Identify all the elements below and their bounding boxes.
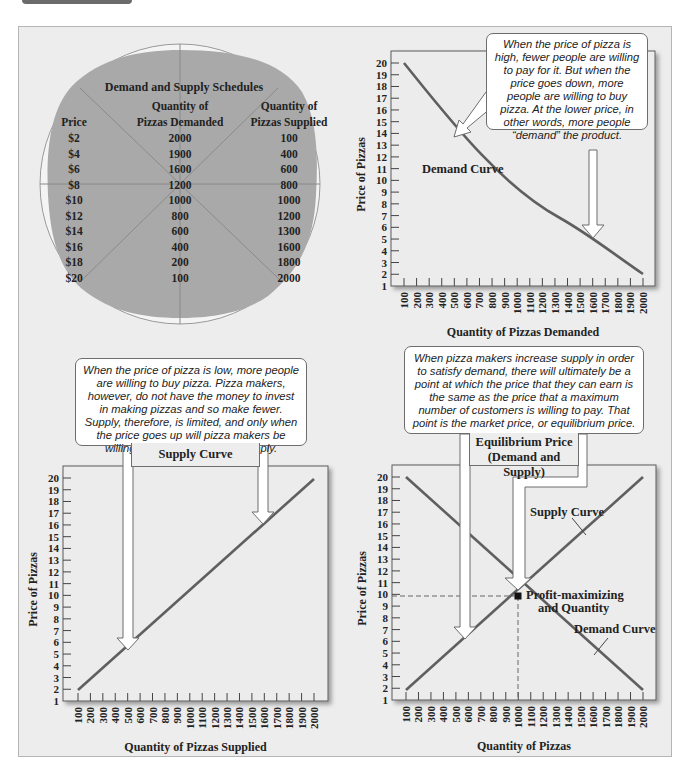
x-tick-label: 1200 (209, 707, 221, 730)
x-tick-label: 1700 (271, 707, 283, 730)
schedule-cell-supplied: 400 (248, 147, 330, 163)
schedule-cell-price: $16 (54, 240, 94, 256)
schedule-cell-demanded: 1600 (140, 162, 220, 178)
x-tick-label: 200 (84, 707, 96, 724)
x-tick-label: 800 (487, 706, 499, 723)
schedule-cell-price: $10 (54, 193, 94, 209)
x-tick-label: 1000 (511, 292, 523, 315)
x-tick-label: 1500 (574, 292, 586, 315)
schedule-col-price: Price (54, 115, 94, 131)
x-axis-title: Quantity of Pizzas Supplied (124, 740, 267, 754)
eq-demand-curve-label: Demand Curve (574, 622, 656, 637)
y-tick-label: 9 (383, 600, 389, 612)
y-tick-label: 7 (54, 625, 60, 637)
y-tick-label: 12 (377, 565, 389, 577)
y-tick-label: 10 (376, 174, 388, 186)
y-tick-label: 17 (48, 507, 60, 519)
y-tick-label: 15 (377, 530, 389, 542)
y-tick-label: 19 (48, 484, 60, 496)
schedule-cell-supplied: 800 (248, 178, 330, 194)
y-tick-label: 4 (383, 659, 389, 671)
x-tick-label: 400 (109, 707, 121, 724)
y-tick-label: 14 (376, 127, 388, 139)
x-tick-label: 600 (462, 706, 474, 723)
supply-chart (63, 466, 328, 701)
y-axis-title: Price of Pizzas (26, 552, 40, 627)
y-tick-label: 10 (377, 588, 389, 600)
y-tick-label: 12 (376, 151, 388, 163)
y-tick-label: 16 (376, 104, 388, 116)
callout-equilibrium: When pizza makers increase supply in ord… (404, 346, 644, 434)
y-tick-label: 11 (378, 577, 388, 589)
x-tick-label: 1500 (575, 706, 587, 729)
y-tick-label: 2 (383, 682, 389, 694)
x-tick-label: 1800 (612, 292, 624, 315)
y-tick-label: 7 (383, 624, 389, 636)
schedule-cell-price: $20 (54, 271, 94, 287)
x-tick-label: 1000 (184, 707, 196, 730)
y-tick-label: 8 (383, 612, 389, 624)
schedule-cell-price: $4 (54, 147, 94, 163)
schedule-col-supplied-l2: Pizzas Supplied (246, 115, 332, 131)
x-tick-label: 1600 (258, 707, 270, 730)
x-tick-label: 1100 (525, 706, 537, 728)
y-tick-label: 1 (54, 695, 60, 707)
x-tick-label: 700 (147, 707, 159, 724)
x-tick-label: 300 (425, 706, 437, 723)
y-tick-label: 12 (48, 566, 60, 578)
y-tick-label: 20 (376, 57, 388, 69)
schedule-cell-supplied: 600 (248, 162, 330, 178)
x-tick-label: 1300 (221, 707, 233, 730)
schedule-cell-demanded: 1900 (140, 147, 220, 163)
x-tick-label: 1900 (624, 292, 636, 315)
x-tick-label: 1900 (625, 706, 637, 729)
x-tick-label: 900 (500, 706, 512, 723)
x-tick-label: 100 (398, 292, 410, 309)
y-tick-label: 1 (382, 280, 388, 292)
y-tick-label: 4 (54, 660, 60, 672)
y-tick-label: 9 (54, 601, 60, 613)
x-tick-label: 500 (448, 292, 460, 309)
x-tick-label: 500 (450, 706, 462, 723)
schedule-cell-demanded: 400 (140, 240, 220, 256)
y-tick-label: 20 (48, 472, 60, 484)
y-tick-label: 7 (382, 210, 388, 222)
x-tick-label: 1900 (296, 707, 308, 730)
schedule-col-demanded-l1: Quantity of (128, 99, 232, 115)
y-tick-label: 15 (48, 531, 60, 543)
schedule-col-demanded-l2: Pizzas Demanded (128, 115, 232, 131)
y-tick-label: 11 (377, 163, 387, 175)
x-tick-label: 1400 (233, 707, 245, 730)
x-tick-label: 1100 (196, 707, 208, 729)
x-tick-label: 200 (412, 706, 424, 723)
y-tick-label: 13 (377, 553, 389, 565)
y-tick-label: 4 (382, 245, 388, 257)
y-tick-label: 8 (382, 198, 388, 210)
schedule-cell-price: $8 (54, 178, 94, 194)
x-tick-label: 1600 (587, 292, 599, 315)
schedule-cell-price: $6 (54, 162, 94, 178)
x-tick-label: 1400 (562, 706, 574, 729)
x-tick-label: 1800 (283, 707, 295, 730)
eq-point-label: Profit-maximizing and Quantity (526, 589, 624, 615)
schedule-cell-demanded: 600 (140, 224, 220, 240)
y-tick-label: 2 (54, 683, 60, 695)
y-tick-label: 13 (48, 554, 60, 566)
x-tick-label: 700 (475, 706, 487, 723)
y-tick-label: 3 (383, 671, 389, 683)
x-tick-label: 1200 (537, 706, 549, 729)
x-tick-label: 900 (171, 707, 183, 724)
y-tick-label: 3 (54, 672, 60, 684)
x-axis-title: Quantity of Pizzas Demanded (447, 325, 600, 339)
y-tick-label: 2 (382, 268, 388, 280)
x-tick-label: 400 (436, 292, 448, 309)
x-tick-label: 1600 (587, 706, 599, 729)
y-tick-label: 19 (376, 69, 388, 81)
x-tick-label: 1300 (549, 292, 561, 315)
x-tick-label: 1100 (524, 292, 536, 314)
y-tick-label: 18 (48, 495, 60, 507)
eq-supply-curve-label: Supply Curve (530, 505, 604, 520)
y-tick-label: 5 (382, 233, 388, 245)
callout-demand: When the price of pizza is high, fewer p… (486, 33, 648, 130)
x-tick-label: 1000 (512, 706, 524, 729)
